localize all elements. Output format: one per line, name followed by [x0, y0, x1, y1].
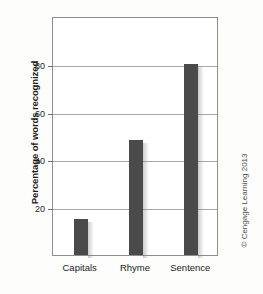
y-axis-tick-label: 60	[35, 109, 45, 119]
x-axis-category-label: Sentence	[170, 262, 210, 273]
x-axis-category-label: Capitals	[62, 262, 96, 273]
y-axis-tick-label: 80	[35, 61, 45, 71]
y-axis-tick	[48, 114, 53, 115]
y-axis-tick-label: 40	[35, 156, 45, 166]
y-axis-tick	[48, 66, 53, 67]
y-axis-tick	[48, 161, 53, 162]
bar	[184, 64, 198, 255]
y-axis-tick	[48, 209, 53, 210]
plot-area: 20406080	[52, 17, 218, 256]
copyright-credit: © Cengage Learning 2013	[240, 131, 249, 271]
figure: Percentage of words recognized 20406080 …	[0, 0, 263, 294]
bar	[129, 140, 143, 255]
y-axis-tick-label: 20	[35, 204, 45, 214]
x-axis-category-label: Rhyme	[120, 262, 150, 273]
bar	[74, 219, 88, 255]
